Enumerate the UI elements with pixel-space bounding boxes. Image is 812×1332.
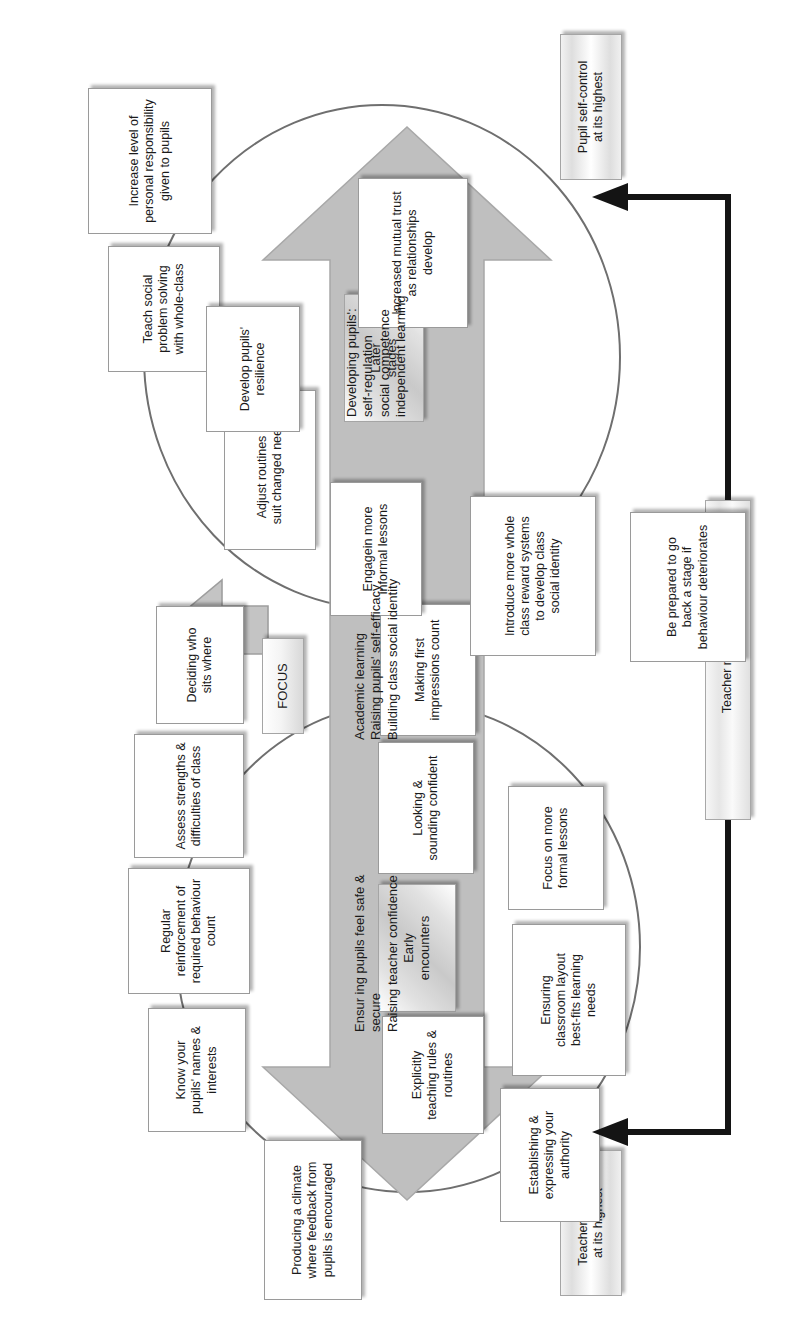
node-focus-formal-lessons: Focus on more formal lessons	[508, 786, 604, 910]
monitoring-arrow-right-head	[592, 183, 628, 211]
arrow-down-text: Ensur ing pupils feel safe & secure Rais…	[352, 782, 401, 1032]
node-develop-resilience: Develop pupils' resilience	[206, 306, 300, 432]
node-ensuring-classroom-layout: Ensuring classroom layout best-fits lear…	[512, 924, 626, 1076]
focus-label: FOCUS	[262, 638, 304, 734]
rotated-diagram-frame: Ensur ing pupils feel safe & secure Rais…	[0, 0, 812, 1332]
node-producing-climate: Producing a climate where feedback from …	[264, 1140, 362, 1300]
node-introduce-reward-systems: Introduce more whole class reward system…	[470, 496, 596, 656]
node-deciding-who-sits-where: Deciding who sits where	[156, 606, 244, 724]
endpoint-pupil-self-control: Pupil self-control at its highest	[560, 34, 622, 180]
diagram-canvas: Ensur ing pupils feel safe & secure Rais…	[0, 0, 812, 1332]
node-establishing-authority: Establishing & expressing your authority	[500, 1088, 600, 1222]
arrow-mid-text: Academic learning Raising pupils' self-e…	[352, 490, 401, 740]
node-increase-personal-responsibility: Increase level of personal responsibilit…	[88, 88, 212, 234]
monitoring-arrow-right	[624, 197, 728, 500]
node-know-pupils-names: Know your pupils' names & interests	[148, 1008, 246, 1132]
node-regular-reinforcement: Regular reinforcement of required behavi…	[128, 868, 250, 994]
node-be-prepared-go-back: Be prepared to go back a stage if behavi…	[630, 512, 746, 662]
arrow-up-text: Developing pupils': self-regulation soci…	[344, 157, 409, 417]
monitoring-arrow-left	[624, 820, 728, 1132]
node-assess-strengths: Assess strengths & difficulties of class	[134, 734, 244, 858]
node-teach-social-problem-solving: Teach social problem solving with whole-…	[108, 246, 220, 372]
node-explicitly-teaching-rules: Explicitly teaching rules & routines	[382, 1016, 484, 1134]
